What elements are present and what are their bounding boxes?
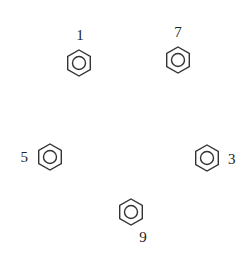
hexagon-icon xyxy=(120,199,143,225)
node-label: 7 xyxy=(174,24,182,40)
aromatic-circle-icon xyxy=(172,54,185,67)
node-label: 3 xyxy=(228,151,236,167)
benzene-node: 1 xyxy=(68,27,91,76)
aromatic-circle-icon xyxy=(44,151,57,164)
aromatic-circle-icon xyxy=(73,57,86,70)
node-label: 9 xyxy=(139,229,147,245)
aromatic-circle-icon xyxy=(201,152,214,165)
benzene-node: 9 xyxy=(120,199,147,245)
hexagon-icon xyxy=(68,50,91,76)
benzene-diagram: 17539 xyxy=(0,0,252,259)
aromatic-circle-icon xyxy=(125,206,138,219)
benzene-node: 5 xyxy=(21,144,62,170)
hexagon-icon xyxy=(39,144,62,170)
benzene-node: 3 xyxy=(196,145,236,171)
hexagon-icon xyxy=(196,145,219,171)
node-label: 1 xyxy=(76,27,84,43)
hexagon-icon xyxy=(167,47,190,73)
node-label: 5 xyxy=(21,149,29,165)
benzene-node: 7 xyxy=(167,24,190,73)
